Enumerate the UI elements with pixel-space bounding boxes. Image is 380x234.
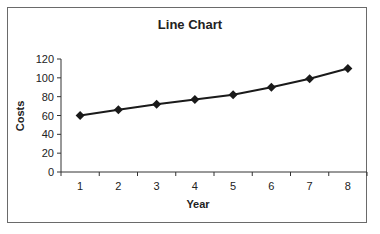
y-tick-label: 60 (42, 110, 54, 122)
x-tick-label: 1 (77, 180, 83, 192)
y-tick-label: 0 (48, 166, 54, 178)
diamond-marker (114, 105, 123, 114)
diamond-marker (305, 74, 314, 83)
diamond-marker (190, 95, 199, 104)
y-tick-label: 20 (42, 147, 54, 159)
plot-area: 02040608010012012345678 (0, 0, 380, 234)
x-tick-label: 6 (268, 180, 274, 192)
x-tick-label: 8 (345, 180, 351, 192)
y-tick-label: 120 (36, 53, 54, 65)
diamond-marker (76, 111, 85, 120)
y-tick-label: 80 (42, 91, 54, 103)
diamond-marker (229, 90, 238, 99)
x-tick-label: 7 (307, 180, 313, 192)
x-tick-label: 4 (192, 180, 198, 192)
diamond-marker (343, 64, 352, 73)
diamond-marker (152, 100, 161, 109)
y-tick-label: 40 (42, 128, 54, 140)
x-tick-label: 2 (115, 180, 121, 192)
x-tick-label: 3 (154, 180, 160, 192)
y-tick-label: 100 (36, 72, 54, 84)
x-tick-label: 5 (230, 180, 236, 192)
diamond-marker (267, 83, 276, 92)
